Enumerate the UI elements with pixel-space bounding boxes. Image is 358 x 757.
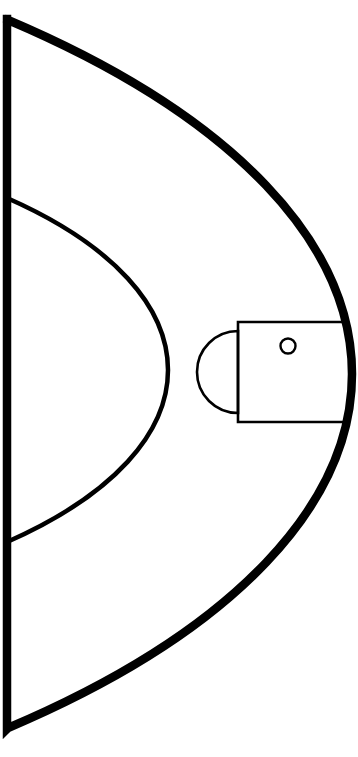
basketball-court-diagram	[0, 0, 358, 757]
court-svg-canvas	[0, 0, 358, 757]
